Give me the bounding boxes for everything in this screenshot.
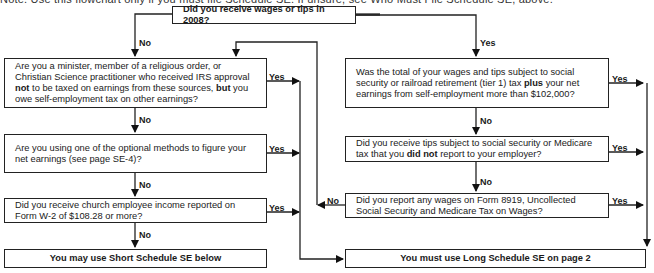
question-optional-methods-text: Are you using one of the optional method… <box>15 143 256 165</box>
label-no-total-wages: No <box>480 116 492 126</box>
label-no-form-8919: No <box>327 196 339 206</box>
question-church-income-text: Did you receive church employee income r… <box>15 200 256 222</box>
label-yes-form-8919: Yes <box>612 196 628 206</box>
label-yes-optional: Yes <box>269 144 285 154</box>
start-question-text: Did you receive wages or tips in 2008? <box>183 4 345 26</box>
question-unreported-tips-text: Did you receive tips subject to social s… <box>356 138 598 160</box>
question-optional-methods-box: Are you using one of the optional method… <box>4 134 267 173</box>
question-form-8919-text: Did you report any wages on Form 8919, U… <box>356 195 598 217</box>
label-no-church: No <box>139 230 151 240</box>
outcome-long-schedule-text: You must use Long Schedule SE on page 2 <box>400 253 590 264</box>
label-yes-church: Yes <box>269 203 285 213</box>
label-yes-tips: Yes <box>612 143 628 153</box>
outcome-long-schedule-box: You must use Long Schedule SE on page 2 <box>345 249 646 268</box>
label-no-minister: No <box>139 115 151 125</box>
question-unreported-tips-box: Did you receive tips subject to social s… <box>345 136 609 162</box>
question-minister-text: Are you a minister, member of a religiou… <box>15 61 256 105</box>
outcome-short-schedule-text: You may use Short Schedule SE below <box>50 253 221 264</box>
question-minister-box: Are you a minister, member of a religiou… <box>4 58 267 108</box>
start-question-box: Did you receive wages or tips in 2008? <box>172 6 356 24</box>
label-yes-minister: Yes <box>269 72 285 82</box>
label-no-optional: No <box>139 180 151 190</box>
label-no-tips: No <box>480 177 492 187</box>
label-yes-start: Yes <box>480 38 496 48</box>
question-church-income-box: Did you receive church employee income r… <box>4 198 267 223</box>
question-total-wages-text: Was the total of your wages and tips sub… <box>356 67 598 100</box>
outcome-short-schedule-box: You may use Short Schedule SE below <box>4 249 267 268</box>
question-total-wages-box: Was the total of your wages and tips sub… <box>345 58 609 108</box>
label-no-start: No <box>139 38 151 48</box>
question-form-8919-box: Did you report any wages on Form 8919, U… <box>345 193 609 218</box>
label-yes-total-wages: Yes <box>612 74 628 84</box>
